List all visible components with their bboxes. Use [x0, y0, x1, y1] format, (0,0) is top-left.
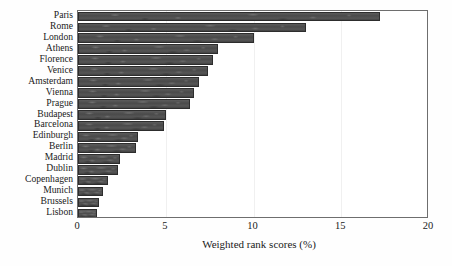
bar-prague[interactable] — [78, 99, 190, 109]
y-axis-category-labels: ParisRomeLondonAthensFlorenceVeniceAmste… — [0, 10, 73, 218]
bar-florence[interactable] — [78, 55, 213, 65]
bar-rome[interactable] — [78, 23, 306, 33]
bar-venice[interactable] — [78, 66, 208, 76]
bar-dublin[interactable] — [78, 165, 118, 175]
x-axis-title: Weighted rank scores (%) — [0, 238, 452, 250]
bar-row[interactable] — [78, 44, 428, 55]
bar-berlin[interactable] — [78, 143, 136, 153]
bar-amsterdam[interactable] — [78, 77, 199, 87]
bar-row[interactable] — [78, 88, 428, 99]
bar-row[interactable] — [78, 33, 428, 44]
bar-row[interactable] — [78, 208, 428, 218]
x-axis-title-text: Weighted rank scores (%) — [202, 238, 316, 250]
bar-edinburgh[interactable] — [78, 132, 138, 142]
bars-group — [78, 11, 427, 217]
bar-row[interactable] — [78, 110, 428, 121]
bar-budapest[interactable] — [78, 110, 166, 120]
bar-chart-figure: ParisRomeLondonAthensFlorenceVeniceAmste… — [0, 0, 452, 266]
y-axis-label-amsterdam: Amsterdam — [0, 76, 73, 87]
bar-vienna[interactable] — [78, 88, 194, 98]
bar-row[interactable] — [78, 77, 428, 88]
x-tick-10: 10 — [247, 219, 258, 233]
bar-row[interactable] — [78, 22, 428, 33]
bar-lisbon[interactable] — [78, 209, 97, 218]
plot-area — [77, 10, 428, 218]
bar-row[interactable] — [78, 175, 428, 186]
bar-row[interactable] — [78, 66, 428, 77]
bar-row[interactable] — [78, 120, 428, 131]
x-tick-15: 15 — [335, 219, 346, 233]
x-tick-20: 20 — [423, 219, 434, 233]
bar-brussels[interactable] — [78, 198, 99, 208]
bar-row[interactable] — [78, 197, 428, 208]
bar-row[interactable] — [78, 11, 428, 22]
bar-row[interactable] — [78, 99, 428, 110]
y-axis-label-vienna: Vienna — [0, 87, 73, 98]
bar-paris[interactable] — [78, 12, 380, 22]
y-axis-label-venice: Venice — [0, 65, 73, 76]
bar-copenhagen[interactable] — [78, 176, 108, 186]
bar-munich[interactable] — [78, 187, 103, 197]
x-axis-tick-labels: 05101520 — [0, 219, 452, 235]
bar-barcelona[interactable] — [78, 121, 164, 131]
bar-athens[interactable] — [78, 44, 218, 54]
bar-row[interactable] — [78, 55, 428, 66]
bar-row[interactable] — [78, 153, 428, 164]
bar-row[interactable] — [78, 186, 428, 197]
bar-madrid[interactable] — [78, 154, 120, 164]
x-tick-5: 5 — [162, 219, 167, 233]
y-axis-label-prague: Prague — [0, 98, 73, 109]
bar-row[interactable] — [78, 131, 428, 142]
bar-london[interactable] — [78, 33, 254, 43]
x-tick-0: 0 — [74, 219, 79, 233]
y-axis-label-lisbon: Lisbon — [0, 207, 73, 218]
bar-row[interactable] — [78, 142, 428, 153]
bar-row[interactable] — [78, 164, 428, 175]
